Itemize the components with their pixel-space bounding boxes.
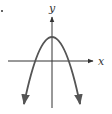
left-arrow-icon: [24, 98, 25, 104]
x-axis-label: x: [98, 55, 105, 68]
stray-dot: [1, 10, 3, 12]
right-arrow-icon: [79, 98, 80, 104]
parabola-graph: x y: [0, 0, 112, 114]
y-axis-label: y: [48, 2, 56, 15]
